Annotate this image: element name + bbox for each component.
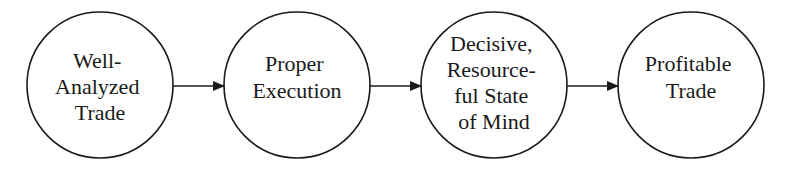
node-well-analyzed-trade: Well- Analyzed Trade	[27, 12, 173, 158]
node-label-line: ful State	[454, 83, 528, 108]
node-label-line: Well-	[73, 48, 121, 73]
node-label-line: Trade	[666, 78, 717, 103]
flow-diagram: Well- Analyzed Trade Proper Execution De…	[0, 0, 789, 169]
svg-text:Well- Analyzed Tra: Well- Analyzed Trade	[55, 48, 145, 125]
svg-text:Decisive, Resource-: Decisive, Resource- ful State of Mind	[447, 31, 542, 134]
node-proper-execution: Proper Execution	[224, 12, 370, 158]
node-decisive-state-of-mind: Decisive, Resource- ful State of Mind	[421, 12, 567, 158]
svg-text:Profitable Trade: Profitable Trade	[645, 51, 737, 103]
node-label-line: of Mind	[458, 109, 530, 134]
node-label-line: Resource-	[447, 57, 536, 82]
node-label-line: Analyzed	[55, 74, 139, 99]
node-label-line: Trade	[75, 100, 126, 125]
node-label-line: Decisive,	[450, 31, 532, 56]
node-label-line: Profitable	[645, 51, 732, 76]
node-label-line: Proper	[265, 51, 324, 76]
node-profitable-trade: Profitable Trade	[618, 12, 764, 158]
svg-text:Proper Execution: Proper Execution	[252, 51, 341, 103]
node-label-line: Execution	[252, 78, 341, 103]
